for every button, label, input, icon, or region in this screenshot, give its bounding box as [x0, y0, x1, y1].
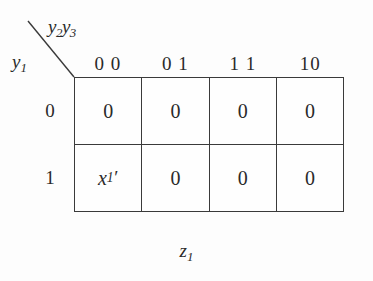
row-variable-sub: 1 [20, 60, 26, 75]
column-variable-base: y [48, 16, 56, 37]
kmap-cell-r1c3: 0 [276, 145, 343, 211]
kmap-cell-r1c0-sub: 1 [107, 170, 114, 186]
column-header-0: 0 0 [74, 50, 142, 77]
column-variable-sub-2: 3 [70, 25, 76, 40]
kmap-cell-r1c2: 0 [209, 145, 276, 211]
row-header-column: 0 1 [30, 77, 70, 212]
column-header-row: 0 0 0 1 1 1 10 [74, 50, 344, 77]
kmap-row-0: 0 0 0 0 [75, 78, 343, 144]
kmap-cell-r0c0: 0 [75, 78, 141, 144]
figure-caption-base: z [180, 240, 187, 261]
kmap-row-1: x1′ 0 0 0 [75, 144, 343, 211]
column-variable-label: y2y3 [48, 16, 76, 41]
kmap-grid: 0 0 0 0 x1′ 0 0 0 [74, 77, 344, 212]
kmap-cell-r0c1: 0 [141, 78, 208, 144]
figure-caption-sub: 1 [187, 249, 193, 264]
figure-caption: z1 [0, 240, 373, 265]
kmap-cell-r0c3: 0 [276, 78, 343, 144]
row-header-0: 0 [30, 77, 70, 145]
kmap-cell-r0c2: 0 [209, 78, 276, 144]
kmap-cell-r1c0: x1′ [75, 145, 141, 211]
row-header-1: 1 [30, 145, 70, 213]
kmap-cell-r1c1: 0 [141, 145, 208, 211]
column-header-1: 0 1 [142, 50, 210, 77]
kmap-cell-r1c0-base: x [98, 167, 107, 190]
row-variable-label: y1 [12, 51, 27, 76]
column-header-3: 10 [277, 50, 345, 77]
karnaugh-map-figure: y2y3 y1 0 0 0 1 1 1 10 0 1 0 0 0 0 x1′ 0… [0, 0, 373, 281]
column-variable-base-2: y [62, 16, 70, 37]
kmap-cell-r1c0-prime: ′ [114, 167, 118, 189]
column-header-2: 1 1 [209, 50, 277, 77]
